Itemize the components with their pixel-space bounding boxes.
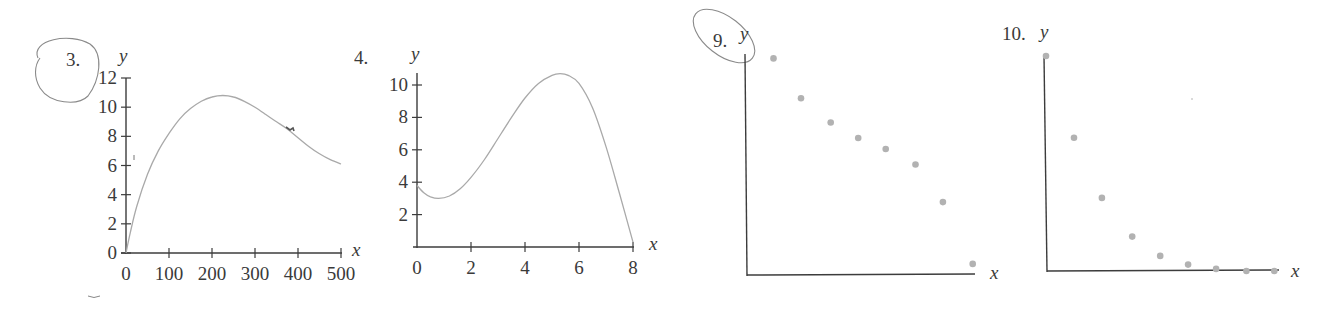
data-point <box>940 199 947 206</box>
x-axis-label: x <box>1290 260 1300 281</box>
function-curve <box>126 96 341 254</box>
y-tick-label: 8 <box>108 125 118 146</box>
x-tick-label: 0 <box>121 263 131 284</box>
x-tick-label: 100 <box>155 263 184 284</box>
x-axis-label: x <box>351 239 361 260</box>
x-axis-label: x <box>648 233 658 254</box>
data-point <box>969 261 976 268</box>
x-tick-label: 8 <box>628 257 638 278</box>
data-point <box>1043 53 1050 60</box>
y-tick-label: 2 <box>108 213 118 234</box>
y-tick-label: 6 <box>399 139 409 160</box>
chart-problem-4: 4. y x 246810 02468 <box>354 43 658 278</box>
data-point <box>882 146 889 153</box>
data-point <box>1129 233 1136 240</box>
stray-dot <box>1191 98 1192 99</box>
data-point <box>1271 268 1278 275</box>
y-tick-label: 2 <box>399 204 409 225</box>
y-tick-label: 8 <box>399 106 409 127</box>
y-tick-label: 12 <box>98 67 117 88</box>
data-points <box>770 55 976 267</box>
data-point <box>855 135 862 142</box>
textbook-page: 3. y x 024681012 0100200300400500 4. y x… <box>0 0 1333 310</box>
data-point <box>1213 266 1220 273</box>
chart-problem-3: 3. y x 024681012 0100200300400500 <box>36 38 362 297</box>
pencil-mark <box>88 296 100 298</box>
chart-problem-10: 10. y x <box>1002 21 1300 281</box>
y-tick-label: 4 <box>399 171 409 192</box>
data-point <box>1099 195 1106 202</box>
x-tick-label: 0 <box>412 257 422 278</box>
x-tick-label: 300 <box>241 263 270 284</box>
data-point <box>1071 134 1078 141</box>
data-point <box>770 55 777 62</box>
data-points <box>1043 53 1278 275</box>
chart-problem-9: 9. y x <box>684 0 999 283</box>
x-axis-label: x <box>989 262 999 283</box>
y-tick-label: 6 <box>108 155 118 176</box>
x-tick-label: 4 <box>520 257 530 278</box>
y-axis-label: y <box>1038 21 1049 42</box>
y-axis <box>1044 56 1047 272</box>
y-tick-label: 4 <box>108 184 118 205</box>
x-tick-label: 200 <box>198 263 227 284</box>
x-tick-label: 500 <box>327 263 356 284</box>
problem-number: 9. <box>713 30 727 51</box>
y-tick-label: 10 <box>98 96 117 117</box>
y-axis-label: y <box>409 43 420 64</box>
x-tick-label: 2 <box>466 257 476 278</box>
y-axis-label: y <box>117 45 128 66</box>
data-point <box>1243 268 1250 275</box>
data-point <box>1185 261 1192 268</box>
x-axis <box>747 274 975 275</box>
figure-canvas: 3. y x 024681012 0100200300400500 4. y x… <box>0 0 1333 310</box>
problem-number: 3. <box>66 49 80 70</box>
handwritten-circle-annotation <box>36 38 99 102</box>
data-point <box>912 161 919 168</box>
problem-number: 10. <box>1002 23 1026 44</box>
problem-number: 4. <box>354 47 368 68</box>
data-point <box>827 119 834 126</box>
data-point <box>798 95 805 102</box>
y-axis-label: y <box>738 23 749 44</box>
x-tick-label: 400 <box>284 263 313 284</box>
data-point <box>1157 253 1164 260</box>
y-tick-label: 0 <box>108 242 118 263</box>
y-tick-label: 10 <box>389 74 408 95</box>
x-tick-label: 6 <box>574 257 584 278</box>
y-axis <box>745 54 747 276</box>
function-curve <box>417 74 633 242</box>
